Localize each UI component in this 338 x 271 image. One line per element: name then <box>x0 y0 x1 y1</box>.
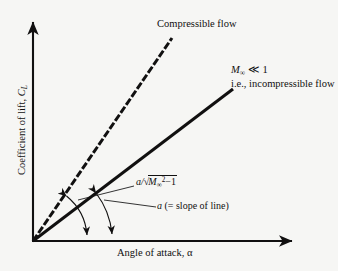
formula-tail: −1 <box>165 176 176 187</box>
leader-line-compressible-formula <box>78 186 134 200</box>
formula-numerator: a/ <box>136 176 144 187</box>
label-compressible-flow: Compressible flow <box>157 18 237 30</box>
x-axis-label-symbol: α <box>187 247 193 258</box>
slope-symbol: a <box>157 200 162 211</box>
figure-root: Compressible flow M∞ ≪ 1 i.e., incompres… <box>0 0 338 271</box>
mach-relation: ≪ 1 <box>248 64 268 75</box>
label-mach-relation: M∞ ≪ 1 <box>231 64 268 78</box>
incompressible-flow-line <box>33 89 233 241</box>
label-slope-a: a (= slope of line) <box>157 200 229 212</box>
label-incompressible-flow: i.e., incompressible flow <box>231 78 335 91</box>
x-axis-label-text: Angle of attack, <box>117 247 187 258</box>
formula-mach: M <box>148 176 156 187</box>
formula-radicand: M∞2−1 <box>148 175 177 187</box>
y-axis-label-text: Coefficient of lift, <box>16 96 27 175</box>
x-axis-label: Angle of attack, α <box>117 247 193 259</box>
diagram-canvas <box>0 0 338 271</box>
leader-line-slope-a <box>104 200 156 207</box>
label-formula-a-over-sqrt: a/√M∞2−1 <box>136 176 177 190</box>
y-axis-label-subscript: L <box>20 85 29 89</box>
compressible-flow-line <box>33 38 172 241</box>
y-axis-label: Coefficient of lift, CL <box>16 60 30 200</box>
incompressible-angle-arc <box>96 193 112 234</box>
mach-symbol: M <box>231 64 240 75</box>
mach-subscript: ∞ <box>240 68 245 77</box>
slope-note: (= slope of line) <box>165 200 229 211</box>
y-axis-label-symbol: C <box>16 89 27 96</box>
